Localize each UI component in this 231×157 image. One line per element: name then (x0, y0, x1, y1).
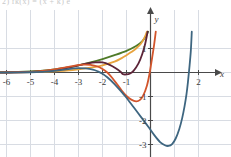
y-tick-label: -1 (139, 92, 147, 102)
x-tick-label: 2 (196, 77, 201, 87)
chart-figure: 2) fk(x) = (x + k) e -6-5-4-3-2-121-1-2-… (0, 0, 231, 157)
x-axis-label: x (219, 69, 224, 79)
x-tick-label: -5 (27, 77, 35, 87)
function-plot: -6-5-4-3-2-121-1-2-3xy (0, 0, 231, 157)
x-tick-label: -4 (51, 77, 59, 87)
y-tick-label: -3 (139, 140, 147, 150)
y-tick-label: 1 (142, 44, 147, 54)
x-tick-label: -6 (3, 77, 11, 87)
x-tick-label: -2 (99, 77, 107, 87)
y-tick-label: -2 (139, 116, 147, 126)
curve-curve-4-orange-red (0, 32, 156, 102)
x-tick-label: -3 (75, 77, 83, 87)
y-axis-label: y (154, 14, 159, 24)
x-tick-label: -1 (123, 77, 131, 87)
